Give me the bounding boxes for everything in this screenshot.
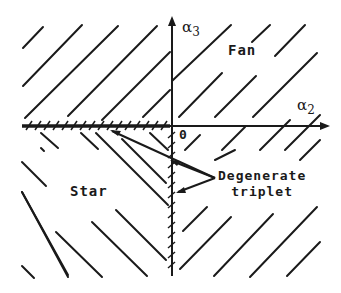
- fan-region-label: Fan: [228, 42, 256, 58]
- alpha2-subscript: 2: [307, 103, 315, 117]
- alpha3-arrowhead-icon: [168, 16, 176, 26]
- alpha2-arrowhead-icon: [320, 122, 330, 130]
- star-fan-boundary: [22, 121, 170, 130]
- pointer-arrowhead-icon: [176, 187, 186, 193]
- alpha3-label: α3: [182, 18, 200, 39]
- star-hatching: [22, 133, 168, 278]
- annotation-line2: triplet: [218, 184, 306, 200]
- annotation-line1: Degenerate: [218, 168, 306, 184]
- phase-diagram: α3 α2 0 Fan Star Degenerate triplet: [0, 0, 341, 293]
- origin-label: 0: [179, 127, 187, 142]
- degenerate-boundary: [168, 126, 175, 276]
- degenerate-triplet-pointers: [112, 131, 215, 192]
- star-region-label: Star: [70, 183, 108, 199]
- alpha3-symbol: α: [182, 18, 192, 36]
- degenerate-triplet-label: Degenerate triplet: [218, 168, 306, 200]
- alpha2-label: α2: [297, 96, 315, 117]
- alpha2-symbol: α: [297, 96, 307, 114]
- alpha3-subscript: 3: [192, 25, 200, 39]
